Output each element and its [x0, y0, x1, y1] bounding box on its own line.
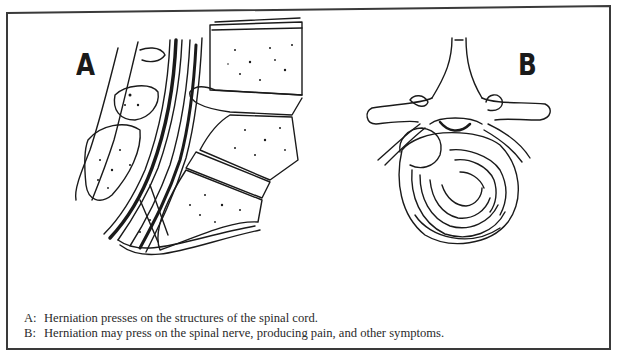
caption-key-b: B:	[24, 326, 44, 341]
caption-key-a: A:	[24, 311, 44, 326]
panel-label-b: B	[518, 50, 537, 80]
caption-text-a: Herniation presses on the structures of …	[44, 311, 318, 325]
caption-line-b: B:Herniation may press on the spinal ner…	[24, 326, 444, 341]
caption-text-b: Herniation may press on the spinal nerve…	[44, 326, 444, 340]
figure-caption: A:Herniation presses on the structures o…	[24, 311, 444, 340]
figure-frame: A	[0, 0, 622, 358]
caption-line-a: A:Herniation presses on the structures o…	[24, 311, 444, 326]
